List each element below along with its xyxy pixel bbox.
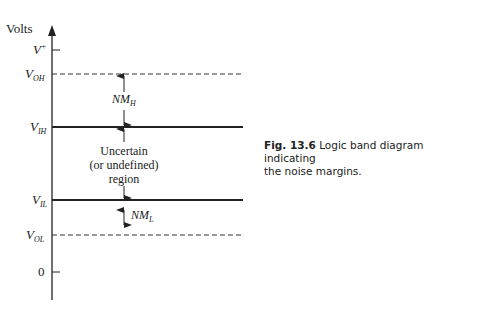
region-label-line2: (or undefined) (90, 158, 159, 172)
nmh-label: NMH (111, 92, 137, 108)
axis-label: Volts (6, 21, 33, 36)
figure-number: Fig. 13.6 (264, 139, 316, 151)
vih-label: VIH (30, 119, 48, 136)
nml-label: NML (130, 208, 154, 224)
vil-label: VIL (32, 192, 48, 209)
region-label-line1: Uncertain (100, 144, 147, 158)
zero-label: 0 (38, 264, 45, 279)
region-label-line3: region (109, 172, 140, 186)
caption-text-line2: the noise margins. (264, 165, 362, 177)
figure-caption: Fig. 13.6 Logic band diagram indicating … (264, 139, 474, 178)
axis-arrowhead-icon (48, 25, 56, 36)
vplus-label: V+ (33, 42, 46, 57)
voh-label: VOH (25, 66, 46, 83)
vol-label: VOL (26, 227, 45, 244)
